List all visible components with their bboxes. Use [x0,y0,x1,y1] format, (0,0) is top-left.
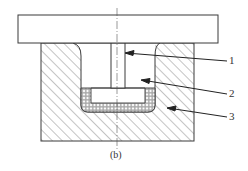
diagram-canvas: 1 2 3 (b) [0,0,248,171]
figure-caption: (b) [110,149,122,160]
formed-cup [81,88,155,112]
callout-label-3: 3 [229,111,235,122]
callout-label-1: 1 [229,55,235,66]
die-cross-section [0,0,248,171]
top-plate [18,15,218,43]
callout-label-2: 2 [229,88,235,99]
stem [111,43,125,88]
